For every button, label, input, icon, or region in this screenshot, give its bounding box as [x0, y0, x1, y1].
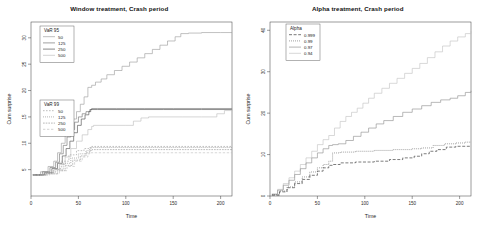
y-tick-label: 20 — [261, 110, 266, 116]
x-tick-label: 0 — [30, 201, 33, 206]
x-tick-label: 150 — [169, 201, 177, 206]
legend-title: Alpha — [290, 26, 302, 31]
legend-entry-label: 250 — [58, 47, 66, 52]
legend-entry-label: 500 — [58, 127, 66, 132]
plot-window-treatment: 05010015020051015202530TimeCum surpriseV… — [0, 0, 238, 240]
y-axis-title: Cum surprise — [245, 93, 251, 124]
legend-entry-label: 250 — [58, 121, 66, 126]
x-tick-label: 0 — [268, 201, 271, 206]
legend-entry-label: 125 — [58, 115, 66, 120]
y-tick-label: 10 — [22, 140, 27, 146]
legend-entry-label: 0.999 — [304, 33, 316, 38]
legend-var99: VaR 9950125250500 — [40, 100, 74, 136]
legend-alpha: Alpha0.9990.990.970.94 — [286, 24, 320, 60]
y-tick-label: 40 — [261, 27, 266, 33]
figure-container: Window treatment, Crash period 050100150… — [0, 0, 477, 240]
legend-entry-label: 125 — [58, 41, 66, 46]
panel-alpha-treatment: Alpha treatment, Crash period 0501001502… — [239, 0, 477, 240]
legend-entry-label: 500 — [58, 53, 66, 58]
legend-entry-label: 0.99 — [304, 39, 313, 44]
legend-entry-label: 50 — [58, 109, 63, 114]
x-axis-title: Time — [364, 213, 375, 219]
series-line — [271, 146, 470, 195]
y-tick-label: 0 — [261, 194, 266, 197]
y-tick-label: 10 — [261, 152, 266, 158]
x-tick-label: 100 — [360, 201, 368, 206]
legend-entry-label: 0.94 — [304, 51, 313, 56]
x-axis-title: Time — [126, 213, 137, 219]
y-tick-label: 5 — [22, 168, 27, 171]
plot-alpha-treatment: 050100150200010203040TimeCum surpriseAlp… — [239, 0, 477, 240]
series-line — [33, 150, 232, 175]
legend-title: VaR 99 — [44, 102, 59, 107]
y-tick-label: 25 — [22, 61, 27, 67]
y-tick-label: 20 — [22, 88, 27, 94]
x-tick-label: 200 — [217, 201, 225, 206]
legend-entry-label: 0.97 — [304, 45, 313, 50]
x-tick-label: 50 — [314, 201, 320, 206]
legend-title: VaR 95 — [44, 28, 59, 33]
x-tick-label: 200 — [455, 201, 463, 206]
y-axis-title: Cum surprise — [6, 93, 12, 124]
legend-var95: VaR 9550125250500 — [40, 26, 74, 62]
x-tick-label: 50 — [76, 201, 82, 206]
series-line — [271, 91, 470, 195]
legend-entry-label: 50 — [58, 35, 63, 40]
panel-window-treatment: Window treatment, Crash period 050100150… — [0, 0, 239, 240]
y-tick-label: 15 — [22, 114, 27, 120]
x-tick-label: 150 — [408, 201, 416, 206]
x-tick-label: 100 — [122, 201, 130, 206]
y-tick-label: 30 — [261, 69, 266, 75]
y-tick-label: 30 — [22, 35, 27, 41]
